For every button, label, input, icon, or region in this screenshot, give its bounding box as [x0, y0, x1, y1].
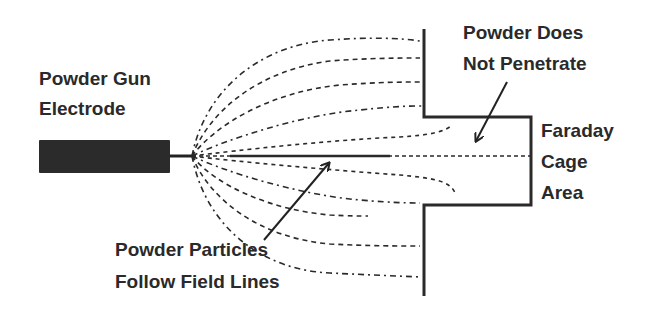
no-penetrate-line1: Powder Does — [463, 22, 587, 44]
particles-line1: Powder Particles — [115, 239, 280, 261]
no-penetrate-arrow — [476, 82, 507, 141]
electrode-label-line2: Electrode — [39, 98, 151, 120]
electrode-label: Powder Gun Electrode — [39, 68, 151, 120]
no-penetrate-line2: Not Penetrate — [463, 53, 587, 75]
faraday-line2: Cage — [541, 151, 614, 173]
electrode-label-line1: Powder Gun — [39, 68, 151, 90]
particles-label: Powder Particles Follow Field Lines — [115, 239, 280, 293]
faraday-line1: Faraday — [541, 120, 614, 142]
diagram-canvas: Powder Gun Electrode Powder Does Not Pen… — [0, 0, 651, 310]
field-line — [192, 82, 420, 156]
no-penetrate-label: Powder Does Not Penetrate — [463, 22, 587, 75]
particles-line2: Follow Field Lines — [115, 271, 280, 293]
faraday-cage-label: Faraday Cage Area — [541, 120, 614, 204]
field-line — [192, 156, 420, 203]
field-line — [192, 156, 455, 193]
faraday-line3: Area — [541, 182, 614, 204]
field-line — [192, 106, 424, 156]
particles-arrow — [264, 163, 329, 240]
electrode-body — [39, 140, 170, 173]
